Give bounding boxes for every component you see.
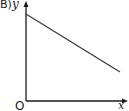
- option-label: B): [0, 0, 12, 10]
- y-axis-arrow-icon: [24, 1, 29, 7]
- y-axis-label: y: [12, 0, 19, 10]
- decreasing-line: [26, 14, 120, 72]
- graph: [0, 0, 129, 111]
- origin-label: O: [15, 100, 24, 111]
- x-axis-label: x: [118, 100, 124, 111]
